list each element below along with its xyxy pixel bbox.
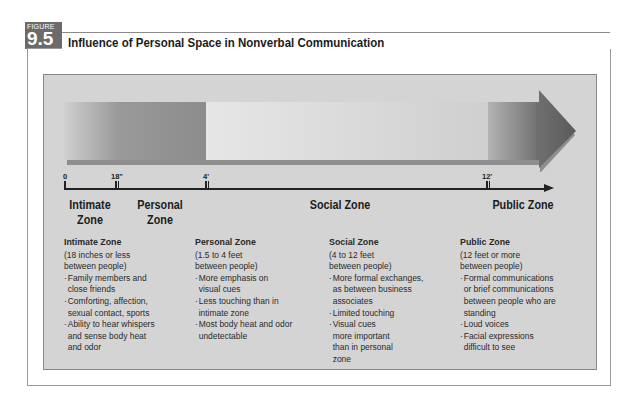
zone-heading-public: Public Zone: [486, 198, 560, 213]
arrow-head-icon: [536, 90, 581, 172]
zone-description-personal: Personal Zone (1.5 to 4 feet between peo…: [195, 236, 324, 342]
band-personal-zone: [116, 102, 206, 160]
band-intimate-zone: [64, 102, 116, 160]
distance-axis: [64, 188, 546, 190]
zone-heading-personal: Personal Zone: [133, 198, 187, 228]
axis-arrow-icon: [544, 184, 554, 192]
tick-4ft: [205, 181, 207, 189]
tick-label-0: 0: [63, 172, 67, 181]
zone-description-social: Social Zone (4 to 12 feet between people…: [329, 236, 458, 366]
band-shadow: [67, 160, 540, 165]
tick-label-18in: 18": [111, 172, 123, 181]
title-rule: [62, 32, 610, 33]
list-item: Facial expressions difficult to see: [460, 331, 537, 354]
list-item: Most body heat and odor undetectable: [195, 319, 294, 342]
figure-number: 9.5: [27, 29, 53, 49]
list-item: Less touching than in intimate zone: [195, 296, 283, 319]
list-item: Comforting, affection, sexual contact, s…: [64, 296, 154, 319]
tick-12ft-b: [489, 181, 490, 189]
tick-label-12ft: 12': [482, 172, 492, 181]
figure-title: Influence of Personal Space in Nonverbal…: [68, 36, 384, 50]
frame-top-edge: [27, 48, 62, 49]
list-item: More formal exchanges, as between busine…: [329, 273, 428, 308]
tick-0: [64, 181, 66, 189]
zone-description-public: Public Zone (12 feet or more between peo…: [460, 236, 589, 354]
tick-label-4ft: 4': [203, 172, 209, 181]
band-public-zone: [488, 102, 540, 160]
band-social-zone: [206, 102, 488, 160]
tick-4ft-b: [208, 181, 209, 189]
tick-18in-b: [118, 181, 119, 189]
zone-heading-social: Social Zone: [304, 198, 376, 213]
zone-description-intimate: Intimate Zone (18 inches or less between…: [64, 236, 193, 354]
list-item: Visual cues more important than in perso…: [329, 319, 397, 365]
list-item: More emphasis on visual cues: [195, 273, 272, 296]
tick-18in: [115, 181, 117, 189]
list-item: Limited touching: [329, 308, 458, 320]
tick-12ft: [486, 181, 488, 189]
zone-heading-intimate: Intimate Zone: [63, 198, 117, 228]
list-item: Loud voices: [460, 319, 589, 331]
list-item: Formal communications or brief communica…: [460, 273, 561, 319]
list-item: Ability to hear whispers and sense body …: [64, 319, 155, 354]
figure-label-badge: FIGURE 9.5: [25, 22, 62, 49]
list-item: Family members and close friends: [64, 273, 149, 296]
